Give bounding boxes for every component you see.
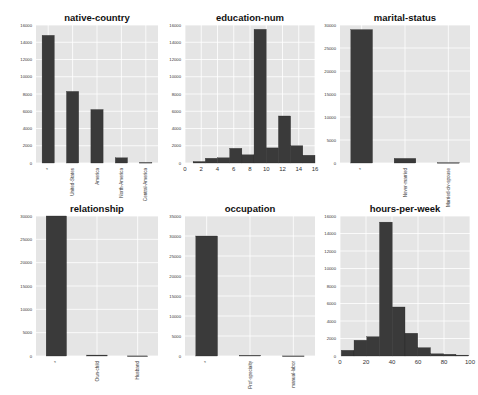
chart-title: hours-per-week — [370, 203, 441, 214]
x-tick-label: Central-America — [143, 168, 148, 202]
x-tick-label: 16 — [312, 166, 319, 172]
y-tick-label: 25000 — [324, 46, 336, 51]
y-tick-label: 0 — [30, 354, 33, 359]
histogram-bar — [354, 340, 367, 356]
y-tick-label: 16000 — [20, 23, 32, 28]
bar-Never-married — [394, 158, 416, 163]
y-tick-label: 8000 — [23, 92, 33, 97]
x-tick-label: Never-married — [403, 168, 408, 198]
x-tick-label: 12 — [279, 166, 286, 172]
y-tick-label: 0 — [334, 354, 337, 359]
subplot-native-country: native-country02000400060008000100001200… — [20, 12, 158, 201]
y-tick-label: 2000 — [23, 143, 33, 148]
x-tick-label: 80 — [441, 359, 448, 365]
chart-title: education-num — [216, 12, 284, 23]
bar-manual-labor — [283, 356, 305, 357]
y-tick-label: 2000 — [172, 143, 182, 148]
y-tick-label: 5000 — [23, 330, 33, 335]
y-tick-label: 10000 — [169, 74, 181, 79]
y-tick-label: 25000 — [169, 254, 181, 259]
histogram-bar — [456, 355, 469, 356]
bar-* — [46, 216, 66, 356]
bar-* — [42, 35, 54, 163]
histogram-bar — [291, 146, 303, 163]
histogram-bar — [266, 148, 278, 163]
x-tick-label: 100 — [465, 359, 476, 365]
x-tick-label: 2 — [200, 166, 204, 172]
y-tick-label: 16000 — [324, 214, 336, 219]
y-tick-label: 5000 — [172, 334, 182, 339]
y-tick-label: 20000 — [20, 260, 32, 265]
x-tick-label: 20 — [363, 359, 370, 365]
y-tick-label: 20000 — [169, 274, 181, 279]
y-tick-label: 15000 — [169, 294, 181, 299]
x-tick-label: Married-civ-spouse — [446, 168, 451, 208]
x-tick-label: 14 — [295, 166, 302, 172]
y-tick-label: 16000 — [169, 23, 181, 28]
y-tick-label: 10000 — [20, 307, 32, 312]
y-tick-label: 10000 — [324, 266, 336, 271]
bar-* — [351, 30, 373, 163]
x-tick-label: 10 — [263, 166, 270, 172]
bar-United-States — [67, 91, 79, 163]
x-tick-label: 60 — [415, 359, 422, 365]
y-tick-label: 12000 — [324, 249, 336, 254]
histogram-bar — [193, 162, 205, 163]
chart-title: occupation — [225, 203, 276, 214]
y-tick-label: 6000 — [172, 109, 182, 114]
histogram-bar — [380, 222, 393, 356]
y-tick-label: 15000 — [20, 284, 32, 289]
x-tick-label: * — [204, 361, 209, 363]
y-tick-label: 14000 — [20, 40, 32, 45]
y-tick-label: 30000 — [20, 214, 32, 219]
histogram-bar — [278, 116, 290, 163]
chart-title: relationship — [70, 203, 124, 214]
subplot-marital-status: marital-status05000100001500020000250003… — [324, 12, 470, 207]
y-tick-label: 14000 — [169, 40, 181, 45]
bar-Husband — [128, 356, 148, 357]
subplot-occupation: occupation050001000015000200002500030000… — [169, 203, 315, 389]
x-tick-label: 8 — [248, 166, 252, 172]
bar-Married-civ-spouse — [438, 163, 460, 164]
y-tick-label: 6000 — [327, 301, 337, 306]
x-tick-label: 4 — [216, 166, 220, 172]
y-tick-label: 4000 — [172, 126, 182, 131]
x-tick-label: America — [95, 168, 100, 185]
y-tick-label: 8000 — [327, 284, 337, 289]
bar-Prof-specialty — [239, 355, 261, 356]
x-tick-label: manual-labor — [291, 361, 296, 388]
x-tick-label: Own-child — [95, 361, 100, 382]
y-tick-label: 6000 — [23, 109, 33, 114]
y-tick-label: 15000 — [324, 92, 336, 97]
histogram-bar — [367, 337, 380, 356]
y-tick-label: 25000 — [20, 237, 32, 242]
x-tick-label: 6 — [232, 166, 236, 172]
subplot-hours-per-week: hours-per-week02000400060008000100001200… — [324, 203, 475, 365]
histogram-bar — [242, 155, 254, 163]
x-tick-label: Prof-specialty — [248, 360, 253, 389]
y-tick-label: 8000 — [172, 92, 182, 97]
bar-Central-America — [140, 162, 152, 163]
y-tick-label: 14000 — [324, 231, 336, 236]
y-tick-label: 0 — [179, 161, 182, 166]
histogram-bar — [218, 158, 230, 163]
bar-North-America — [115, 158, 127, 163]
subplot-relationship: relationship0500010000150002000025000300… — [20, 203, 158, 381]
chart-title: marital-status — [374, 12, 436, 23]
x-tick-label: 0 — [183, 166, 187, 172]
x-tick-label: * — [359, 168, 364, 170]
bar-America — [91, 110, 103, 163]
histogram-bar — [405, 333, 418, 356]
y-tick-label: 0 — [30, 161, 33, 166]
y-tick-label: 4000 — [327, 319, 337, 324]
y-tick-label: 20000 — [324, 69, 336, 74]
histogram-bar — [341, 350, 354, 356]
y-tick-label: 10000 — [169, 314, 181, 319]
y-tick-label: 12000 — [20, 57, 32, 62]
histogram-bar — [303, 155, 315, 163]
y-tick-label: 30000 — [169, 234, 181, 239]
y-tick-label: 10000 — [20, 74, 32, 79]
chart-title: native-country — [64, 12, 130, 23]
histogram-bar — [430, 354, 443, 356]
x-tick-label: * — [54, 361, 59, 363]
